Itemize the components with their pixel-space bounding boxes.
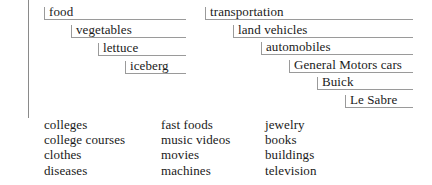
hierarchy-level: iceberg [125, 56, 186, 74]
hierarchy-level: land vehicles [233, 20, 413, 38]
hierarchy-level-label: lettuce [103, 41, 138, 55]
word-item: colleges [44, 117, 125, 132]
hierarchy-level-label: Buick [322, 75, 354, 89]
hierarchy-level-label: food [49, 5, 73, 19]
left-vertical-rule [28, 0, 29, 118]
hierarchy-level: vegetables [71, 20, 186, 38]
word-item: diseases [44, 163, 125, 178]
word-item: television [265, 163, 317, 178]
word-item: fast foods [161, 117, 230, 132]
hierarchy-level: lettuce [98, 38, 186, 56]
hierarchy-level: automobiles [261, 37, 413, 55]
hierarchy-level-label: transportation [210, 5, 284, 19]
word-item: movies [161, 147, 230, 162]
hierarchy-level-label: iceberg [130, 59, 169, 73]
word-item: books [265, 132, 317, 147]
word-item: college courses [44, 132, 125, 147]
word-column-3: jewelrybooksbuildingstelevision [265, 117, 317, 178]
hierarchy-level-label: land vehicles [238, 23, 308, 37]
hierarchy-level-rule [345, 107, 413, 108]
word-item: music videos [161, 132, 230, 147]
word-columns: collegescollege coursesclothesdiseasesfa… [44, 117, 424, 185]
hierarchy-level: transportation [205, 2, 413, 20]
word-item: machines [161, 163, 230, 178]
word-item: buildings [265, 147, 317, 162]
hierarchy-level-label: Le Sabre [350, 93, 397, 107]
hierarchy-level-label: General Motors cars [294, 58, 402, 72]
hierarchy-level: General Motors cars [289, 55, 413, 73]
hierarchy-level-rule [125, 73, 186, 74]
word-column-1: collegescollege coursesclothesdiseases [44, 117, 125, 178]
word-item: clothes [44, 147, 125, 162]
hierarchy-level: food [44, 2, 186, 20]
hierarchy-level-label: automobiles [266, 40, 331, 54]
hierarchy-level: Buick [317, 72, 413, 90]
hierarchy-level: Le Sabre [345, 90, 413, 108]
hierarchy-level-label: vegetables [76, 23, 132, 37]
hierarchy-figure: foodvegetableslettuceiceberg transportat… [0, 0, 432, 185]
word-column-2: fast foodsmusic videosmoviesmachines [161, 117, 230, 178]
word-item: jewelry [265, 117, 317, 132]
